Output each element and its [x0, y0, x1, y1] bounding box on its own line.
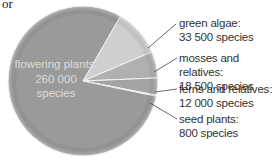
flowering-plants-label: flowering plants: 260 000 species [14, 57, 98, 101]
label-value: 33 500 species [179, 30, 254, 44]
seed-plants-label: seed plants: 800 species [179, 112, 239, 140]
ferns-label: ferns and relatives: 12 000 species [179, 82, 272, 110]
label-name: flowering plants: [14, 57, 98, 72]
label-value: 800 species [179, 126, 239, 140]
label-unit: species [14, 86, 98, 101]
label-name: green algae: [179, 16, 254, 30]
label-name: ferns and relatives: [179, 82, 272, 96]
label-value: 260 000 [14, 72, 98, 87]
label-name: seed plants: [179, 112, 239, 126]
label-name: mosses and relatives: [179, 51, 279, 79]
green-algae-label: green algae: 33 500 species [179, 16, 254, 44]
label-value: 12 000 species [179, 96, 272, 110]
